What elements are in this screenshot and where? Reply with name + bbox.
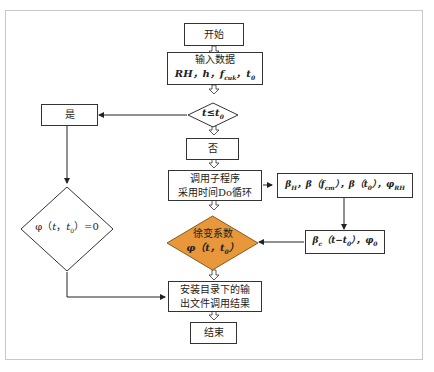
creep-coefficient-title: 徐变系数 [193,227,233,241]
no-label: 否 [208,142,218,156]
start-label: 开始 [204,28,224,42]
no-node: 否 [186,138,239,160]
output-node: 安装目录下的输 出文件调用结果 [168,281,262,312]
condition-diamond: t≤t0 [187,102,239,128]
input-data-params: RH，h，fcuk，t0 [175,67,255,85]
output-line2: 出文件调用结果 [180,297,250,311]
yes-label: 是 [65,108,75,122]
input-data-title: 输入数据 [195,53,235,67]
subroutine-line2: 采用时间Do循环 [178,186,252,200]
condition-label: t≤t0 [202,106,224,124]
zero-creep-diamond: φ（t，t0）=0 [20,186,114,272]
zero-creep-label: φ（t，t0）=0 [35,220,99,238]
creep-coefficient-diamond: 徐变系数 φ（t，t0） [166,215,259,271]
params2-node: βc（t−t0），φ0 [305,230,385,254]
params1-label: βH，β（fcm），β（t0），φRH [285,177,405,195]
input-data-node: 输入数据 RH，h，fcuk，t0 [167,52,263,85]
end-node: 结束 [190,322,237,344]
output-line1: 安装目录下的输 [180,283,250,297]
params1-node: βH，β（fcm），β（t0），φRH [277,173,413,198]
params2-label: βc（t−t0），φ0 [312,233,377,251]
subroutine-line1: 调用子程序 [190,172,240,186]
end-label: 结束 [204,326,224,340]
creep-coefficient-formula: φ（t，t0） [186,241,238,259]
start-node: 开始 [184,23,244,46]
subroutine-node: 调用子程序 采用时间Do循环 [168,170,262,201]
yes-node: 是 [41,104,98,126]
